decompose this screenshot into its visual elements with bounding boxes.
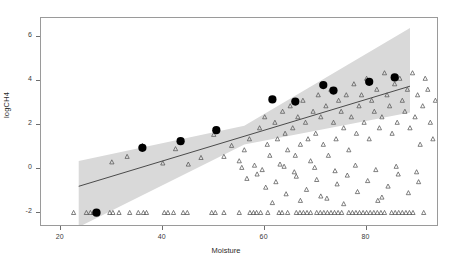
data-point-triangle [422,210,426,214]
data-point-triangle [242,148,246,152]
data-point-triangle [185,210,189,214]
data-point-triangle [390,131,394,135]
data-point-triangle [259,210,263,214]
data-point-triangle [111,210,115,214]
data-point-triangle [319,194,323,198]
data-point-triangle [355,190,359,194]
binned-mean-point [138,144,146,152]
data-point-triangle [333,169,337,173]
scatter-plot-canvas [41,18,438,226]
data-point-triangle [166,210,170,214]
binned-mean-point [329,87,337,95]
data-point-triangle [426,87,430,91]
data-point-triangle [255,172,259,176]
data-point-triangle [240,165,244,169]
y-tick-label: 4 [10,75,32,82]
data-point-triangle [347,148,351,152]
data-point-triangle [298,142,302,146]
data-point-triangle [264,185,268,189]
data-point-triangle [428,120,432,124]
binned-mean-point [268,95,276,103]
binned-mean-point [212,126,220,134]
data-point-triangle [415,170,419,174]
data-point-triangle [335,182,339,186]
data-point-triangle [433,98,437,102]
y-tick-label: 2 [10,119,32,126]
data-point-triangle [213,210,217,214]
data-point-triangle [406,191,410,195]
regression-line [79,86,410,186]
chart-figure: -20246 20406080 Moisture logCH4 [0,0,452,266]
data-point-triangle [292,170,296,174]
data-point-triangle [334,137,338,141]
data-point-triangle [305,210,309,214]
x-tick-label: 60 [249,233,279,240]
data-point-triangle [413,115,417,119]
data-point-triangle [254,210,258,214]
confidence-band [79,28,410,226]
data-point-triangle [396,172,400,176]
data-point-triangle [136,210,140,214]
data-point-triangle [268,153,272,157]
data-point-triangle [342,202,346,206]
data-point-triangle [293,153,297,157]
data-point-triangle [395,120,399,124]
data-point-triangle [366,179,370,183]
data-point-triangle [377,126,381,130]
data-point-triangle [278,162,282,166]
data-point-triangle [407,210,411,214]
y-tick-label: 6 [10,31,32,38]
data-point-triangle [306,137,310,141]
data-point-triangle [222,210,226,214]
data-point-triangle [423,76,427,80]
data-point-triangle [266,210,270,214]
x-tick-mark [366,226,367,230]
binned-mean-point [177,137,185,145]
data-point-triangle [286,210,290,214]
x-tick-label: 20 [45,233,75,240]
data-point-triangle [418,142,422,146]
data-point-triangle [321,142,325,146]
data-point-triangle [380,195,384,199]
data-point-triangle [374,168,378,172]
x-tick-mark [264,226,265,230]
y-tick-label: -2 [10,207,32,214]
data-point-triangle [284,192,288,196]
binned-mean-point [391,73,399,81]
data-point-triangle [326,153,330,157]
binned-mean-point [92,209,100,217]
data-point-triangle [416,93,420,97]
data-point-triangle [181,210,185,214]
data-point-triangle [397,210,401,214]
data-point-triangle [313,165,317,169]
data-point-triangle [309,159,313,163]
data-point-triangle [144,210,148,214]
data-point-triangle [386,184,390,188]
data-point-triangle [237,210,241,214]
data-point-triangle [294,174,298,178]
binned-mean-point [319,81,327,89]
confidence-band-shape [79,28,410,226]
x-tick-mark [162,226,163,230]
data-point-triangle [245,176,249,180]
data-point-triangle [286,148,290,152]
data-point-triangle [117,210,121,214]
x-axis-title: Moisture [0,246,452,255]
data-point-triangle [431,137,435,141]
data-point-triangle [408,126,412,130]
data-point-triangle [274,180,278,184]
x-tick-mark [60,226,61,230]
data-point-triangle [270,201,274,205]
data-point-triangle [376,198,380,202]
data-point-triangle [345,173,349,177]
data-point-triangle [314,131,318,135]
data-point-triangle [347,210,351,214]
data-point-triangle [353,163,357,167]
data-point-triangle [342,126,346,130]
data-point-triangle [252,163,256,167]
data-point-triangle [367,137,371,141]
fit-line-path [79,86,410,186]
y-axis-title: logCH4 [2,92,11,118]
binned-mean-point [291,98,299,106]
data-point-triangle [72,210,76,214]
